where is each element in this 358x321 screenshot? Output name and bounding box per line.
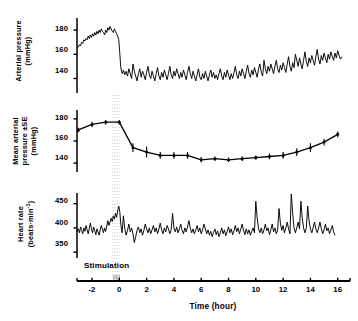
- marker: [241, 157, 244, 160]
- datapoint-mean-arterial-pressure-18: [323, 139, 326, 146]
- x-tick-label-16: 16: [326, 285, 350, 294]
- x-tick-label--2: -2: [80, 285, 104, 294]
- figure-panel-container: Arterial pressure (mmHg) Mean arterial p…: [0, 0, 358, 321]
- marker: [77, 128, 80, 131]
- x-tick-label-14: 14: [298, 285, 322, 294]
- datapoint-mean-arterial-pressure-1: [91, 122, 94, 128]
- marker: [336, 133, 339, 136]
- datapoint-mean-arterial-pressure-15: [282, 152, 285, 159]
- datapoint-mean-arterial-pressure-17: [309, 143, 312, 152]
- x-tick-label-2: 2: [135, 285, 159, 294]
- marker: [295, 151, 298, 154]
- marker: [213, 157, 216, 160]
- marker: [200, 158, 203, 161]
- marker: [172, 154, 175, 157]
- datapoint-mean-arterial-pressure-9: [200, 157, 203, 163]
- x-tick-label-12: 12: [271, 285, 295, 294]
- datapoint-mean-arterial-pressure-12: [241, 157, 244, 161]
- marker: [309, 146, 312, 149]
- datapoint-mean-arterial-pressure-11: [227, 158, 230, 162]
- marker: [91, 123, 94, 126]
- datapoint-mean-arterial-pressure-8: [186, 152, 189, 159]
- datapoint-mean-arterial-pressure-16: [295, 148, 298, 156]
- x-tick-label-10: 10: [244, 285, 268, 294]
- x-tick-label-4: 4: [162, 285, 186, 294]
- datapoint-mean-arterial-pressure-19: [336, 132, 339, 138]
- marker: [227, 158, 230, 161]
- datapoint-mean-arterial-pressure-13: [254, 155, 257, 159]
- trace-arterial-pressure: [77, 26, 342, 80]
- marker: [145, 151, 148, 154]
- datapoint-mean-arterial-pressure-2: [104, 120, 107, 124]
- marker: [159, 154, 162, 157]
- datapoint-mean-arterial-pressure-7: [172, 152, 175, 159]
- marker: [282, 154, 285, 157]
- x-tick-label-0: 0: [107, 285, 131, 294]
- datapoint-mean-arterial-pressure-6: [159, 152, 162, 159]
- x-tick-label-8: 8: [217, 285, 241, 294]
- mean-line-mean-arterial-pressure: [78, 122, 337, 160]
- marker: [268, 155, 271, 158]
- marker: [186, 154, 189, 157]
- marker: [323, 141, 326, 144]
- datapoint-mean-arterial-pressure-5: [145, 147, 148, 158]
- marker: [254, 156, 257, 159]
- marker: [104, 121, 107, 124]
- datapoint-mean-arterial-pressure-10: [213, 157, 216, 161]
- plot-drawing-layer: [0, 0, 358, 321]
- datapoint-mean-arterial-pressure-14: [268, 154, 271, 160]
- x-tick-label-6: 6: [189, 285, 213, 294]
- marker: [131, 146, 134, 149]
